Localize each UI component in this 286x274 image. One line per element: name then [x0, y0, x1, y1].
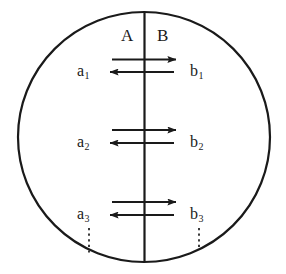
flux-label-b3-sub: 3 [199, 213, 204, 224]
flux-label-b2: b2 [190, 134, 203, 150]
flux-label-b3-base: b [190, 205, 198, 222]
diagram-vector-layer [0, 0, 286, 274]
flux-label-b2-sub: 2 [199, 141, 204, 152]
flux-label-b1-base: b [190, 62, 198, 79]
flux-label-a2-base: a [77, 133, 84, 150]
flux-label-a2-sub: 2 [85, 141, 90, 152]
diagram-canvas: A B a1 b1 a2 b2 a3 b3 [0, 0, 286, 274]
compartment-label-a: A [121, 27, 133, 44]
compartment-label-b: B [157, 27, 168, 44]
flux-label-a3: a3 [77, 206, 89, 222]
flux-label-b3: b3 [190, 206, 203, 222]
flux-label-a2: a2 [77, 134, 89, 150]
exchange-arrows-group [110, 60, 176, 216]
flux-label-a3-sub: 3 [85, 213, 90, 224]
flux-label-a1-base: a [77, 62, 84, 79]
flux-label-a1-sub: 1 [85, 70, 90, 81]
flux-label-b1-sub: 1 [199, 70, 204, 81]
flux-label-b2-base: b [190, 133, 198, 150]
flux-label-a3-base: a [77, 205, 84, 222]
flux-label-a1: a1 [77, 63, 89, 79]
flux-label-b1: b1 [190, 63, 203, 79]
